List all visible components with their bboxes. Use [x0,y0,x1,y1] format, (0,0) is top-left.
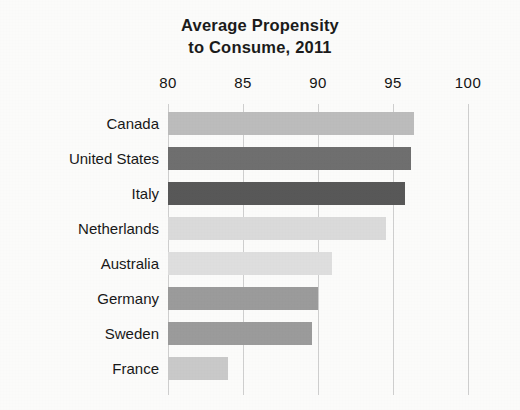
bar-germany [168,287,318,310]
bar-row: Netherlands [168,211,468,246]
chart-title-line-1: Average Propensity [181,16,339,34]
bar-italy [168,182,405,205]
x-tick-label-95: 95 [384,74,402,91]
gridline-100 [468,104,469,395]
bar-united-states [168,147,411,170]
bar-sweden [168,322,312,345]
bar-canada [168,112,414,135]
x-tick-label-80: 80 [159,74,177,91]
x-tick-label-90: 90 [309,74,327,91]
category-label-sweden: Sweden [105,322,168,345]
bar-row: Australia [168,246,468,281]
chart-figure: Average Propensity to Consume, 2011 8085… [0,0,520,410]
category-label-germany: Germany [97,287,168,310]
plot-area: CanadaUnited StatesItalyNetherlandsAustr… [168,104,468,395]
x-axis-tick-labels: 80859095100 [0,74,520,96]
bar-row: Italy [168,176,468,211]
bar-row: Sweden [168,316,468,351]
bar-row: Canada [168,106,468,141]
bar-france [168,357,228,380]
category-label-australia: Australia [101,252,168,275]
category-label-united-states: United States [69,147,168,170]
bar-row: Germany [168,281,468,316]
category-label-italy: Italy [131,182,168,205]
category-label-netherlands: Netherlands [78,217,168,240]
category-label-france: France [112,357,168,380]
bar-rows: CanadaUnited StatesItalyNetherlandsAustr… [168,104,468,395]
bar-netherlands [168,217,386,240]
bar-row: France [168,351,468,386]
x-tick-label-85: 85 [234,74,252,91]
chart-title-line-2: to Consume, 2011 [0,36,520,58]
bar-australia [168,252,332,275]
x-tick-label-100: 100 [455,74,482,91]
bar-row: United States [168,141,468,176]
chart-title: Average Propensity to Consume, 2011 [0,14,520,58]
category-label-canada: Canada [106,112,168,135]
